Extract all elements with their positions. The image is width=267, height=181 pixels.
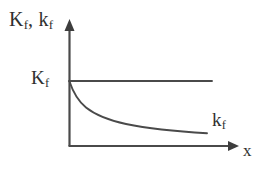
x-axis-arrowhead-icon	[228, 141, 239, 151]
figure-container: Kf, kf Kf kf x	[0, 0, 267, 181]
curve-label-kf-base: k	[212, 109, 222, 130]
y-axis-label-Kf-subscript: f	[24, 17, 28, 32]
series-decay-kf	[70, 82, 208, 134]
tick-label-Kf-subscript: f	[45, 76, 49, 90]
y-axis-label-kf-base: k	[38, 8, 48, 30]
y-axis-label-Kf-base: K	[9, 8, 24, 30]
y-axis-tick-label-Kf: Kf	[31, 68, 49, 87]
curve-label-kf: kf	[212, 110, 226, 129]
x-axis-label: x	[243, 142, 252, 159]
y-axis-arrowhead-icon	[65, 19, 75, 31]
y-axis-label: Kf, kf	[9, 9, 53, 29]
y-axis-label-kf-subscript: f	[49, 17, 53, 32]
tick-label-Kf-base: K	[31, 67, 45, 88]
curve-label-kf-subscript: f	[222, 118, 226, 132]
y-axis-label-separator: ,	[28, 8, 38, 30]
